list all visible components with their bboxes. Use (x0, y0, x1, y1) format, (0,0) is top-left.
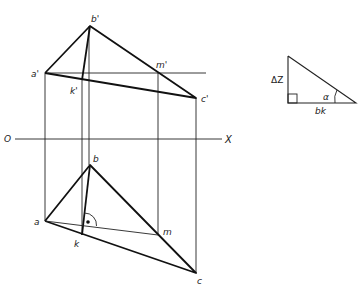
orthographic-projection-diagram: O X a' b' c' k' m' a b c k m (0, 0, 359, 296)
right-angle-square-icon (288, 94, 297, 103)
label-c-prime: c' (201, 94, 208, 104)
line-bk (82, 165, 90, 235)
axis-label-x: X (224, 134, 233, 145)
label-alpha: α (323, 92, 329, 102)
front-view-triangle: a' b' c' k' m' (31, 14, 208, 104)
top-view-triangle: a b c k m (34, 154, 202, 286)
label-a: a (34, 217, 40, 227)
angle-arc-icon (335, 90, 337, 103)
projection-lines (45, 26, 206, 273)
label-c: c (197, 276, 202, 286)
label-delta-z: ΔZ (271, 75, 283, 85)
label-m-prime: m' (156, 60, 167, 70)
label-k-prime: k' (70, 86, 78, 96)
axis-label-o: O (4, 134, 11, 144)
label-bk: bk (315, 106, 327, 116)
label-k: k (74, 239, 80, 249)
right-angle-arc-icon (85, 213, 97, 226)
label-a-prime: a' (31, 69, 39, 79)
label-b-prime: b' (91, 14, 99, 24)
auxiliary-right-triangle: ΔZ bk α (271, 56, 356, 116)
line-am (45, 221, 158, 235)
ox-axis: O X (4, 134, 233, 145)
label-b: b (93, 154, 99, 164)
right-angle-dot-icon (86, 220, 90, 224)
label-m: m (163, 227, 172, 237)
